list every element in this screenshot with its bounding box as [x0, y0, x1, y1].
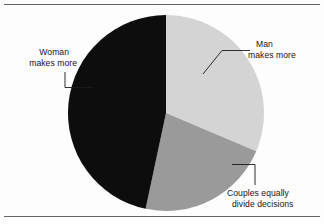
- label-man-line2: makes more: [248, 50, 296, 60]
- pie-slice-woman-makes-more: [68, 15, 166, 209]
- label-couples-line2: divide decisions: [232, 199, 293, 209]
- pie-slices: [68, 15, 264, 211]
- label-couples-line1: Couples equally: [227, 188, 290, 198]
- label-man-line1: Man: [256, 39, 273, 49]
- label-woman-line2: makes more: [29, 58, 77, 68]
- pie-chart-figure: Man makes more Couples equally divide de…: [0, 0, 324, 224]
- label-woman-line1: Woman: [39, 47, 69, 57]
- pie-chart-canvas: Man makes more Couples equally divide de…: [0, 0, 324, 224]
